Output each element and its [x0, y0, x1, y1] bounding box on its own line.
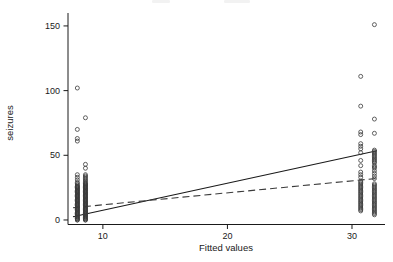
x-tick-label: 20: [222, 231, 232, 241]
data-point: [83, 116, 87, 120]
y-axis-title: seizures: [4, 105, 15, 141]
x-tick-label: 30: [347, 231, 357, 241]
scatter-plot-figure: 050100150 102030 seizures Fitted values: [0, 0, 393, 262]
data-point: [372, 117, 376, 121]
data-point: [359, 164, 363, 168]
scatter-points: [75, 23, 376, 222]
data-point: [359, 104, 363, 108]
data-point: [83, 162, 87, 166]
y-tick-label: 100: [45, 86, 60, 96]
data-point: [372, 23, 376, 27]
data-point: [359, 158, 363, 162]
scatter-plot-canvas: 050100150 102030 seizures Fitted values: [0, 0, 393, 262]
y-axis-ticks: 050100150: [45, 21, 68, 225]
y-tick-label: 0: [55, 215, 60, 225]
data-point: [75, 139, 79, 143]
data-point: [359, 175, 363, 179]
x-tick-label: 10: [98, 231, 108, 241]
x-axis-ticks: 102030: [98, 225, 357, 241]
x-axis-title: Fitted values: [199, 242, 253, 253]
data-point: [75, 86, 79, 90]
fit-line-dashed: [73, 179, 376, 208]
fit-line-solid: [73, 151, 377, 217]
data-point: [83, 166, 87, 170]
data-point: [359, 147, 363, 151]
y-tick-label: 50: [50, 150, 60, 160]
y-tick-label: 150: [45, 21, 60, 31]
data-point: [75, 127, 79, 131]
data-point: [359, 133, 363, 137]
data-point: [359, 74, 363, 78]
fit-lines: [73, 151, 377, 217]
data-point: [372, 131, 376, 135]
